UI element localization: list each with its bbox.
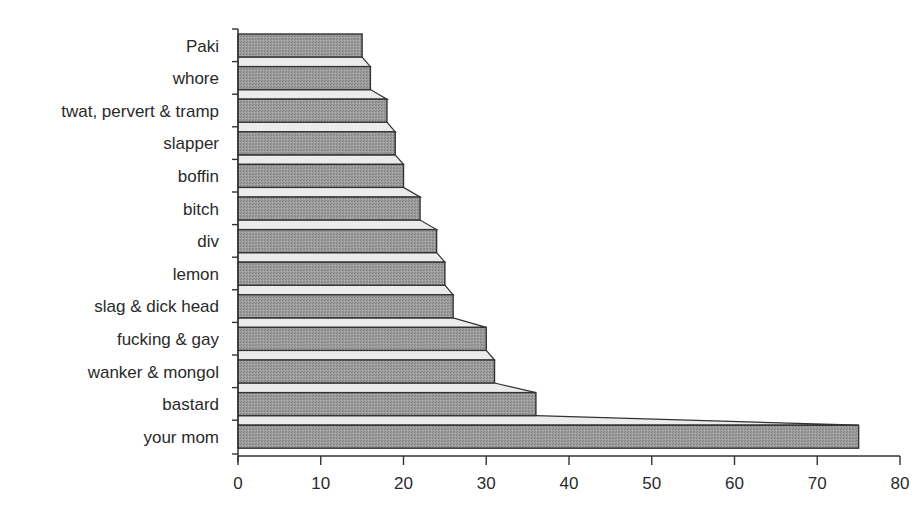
category-label: slapper [163, 134, 219, 153]
bar-5 [238, 197, 420, 220]
bar-7 [238, 262, 445, 285]
category-label: div [197, 232, 219, 251]
x-tick-label: 60 [725, 474, 744, 493]
category-labels: Pakiwhoretwat, pervert & trampslapperbof… [61, 37, 219, 447]
category-label: Paki [186, 37, 219, 56]
x-tick-label: 70 [808, 474, 827, 493]
bar-top-face [238, 383, 536, 393]
bar-2 [238, 99, 387, 122]
category-label: bitch [183, 200, 219, 219]
x-tick-label: 30 [477, 474, 496, 493]
bar-top-face [238, 57, 370, 67]
x-tick-label: 10 [311, 474, 330, 493]
bar-top-face [238, 122, 395, 132]
bar-top-face [238, 318, 486, 328]
x-tick-label: 20 [394, 474, 413, 493]
category-label: lemon [173, 265, 219, 284]
category-label: whore [172, 69, 219, 88]
category-label: slag & dick head [94, 297, 219, 316]
category-label: bastard [162, 395, 219, 414]
bar-4 [238, 164, 404, 187]
bar-3 [238, 132, 395, 155]
bar-9 [238, 327, 486, 350]
category-label: fucking & gay [117, 330, 220, 349]
y-axis [232, 29, 238, 462]
bar-1 [238, 67, 370, 90]
bar-top-face [238, 90, 387, 100]
bar-top-face [238, 285, 453, 295]
category-label: boffin [178, 167, 219, 186]
bar-top-face [238, 350, 495, 360]
bar-8 [238, 295, 453, 318]
bar-10 [238, 360, 495, 383]
bar-11 [238, 393, 536, 416]
bar-top-face [238, 155, 404, 165]
category-label: wanker & mongol [87, 363, 219, 382]
bar-12 [238, 425, 859, 448]
category-label: twat, pervert & tramp [61, 102, 219, 121]
bar-chart: 01020304050607080 Pakiwhoretwat, pervert… [0, 0, 922, 510]
x-tick-label: 50 [642, 474, 661, 493]
x-axis: 01020304050607080 [233, 456, 909, 493]
bar-6 [238, 230, 437, 253]
x-tick-label: 80 [891, 474, 910, 493]
x-tick-label: 40 [560, 474, 579, 493]
bar-top-face [238, 187, 420, 197]
x-tick-label: 0 [233, 474, 242, 493]
bar-top-face [238, 416, 859, 426]
bar-top-face [238, 253, 445, 263]
bar-top-face [238, 220, 437, 230]
category-label: your mom [143, 428, 219, 447]
bar-0 [238, 34, 362, 57]
